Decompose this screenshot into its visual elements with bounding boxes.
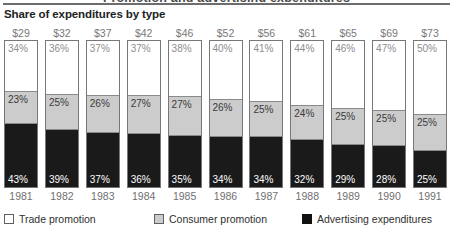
bar-segment-advertising-expenditures: 34%	[210, 137, 242, 187]
chart-title: Share of expenditures by type	[4, 8, 165, 20]
x-axis-tick-label: 1991	[413, 190, 447, 202]
bar-column-1988: $6144%24%32%1988	[290, 27, 324, 205]
bar-total-label: $32	[45, 27, 79, 40]
bar-total-label: $29	[4, 27, 38, 40]
bar-segment-trade-promotion: 36%	[46, 41, 78, 94]
bar-segment-consumer-promotion: 27%	[128, 95, 160, 134]
bar-segment-trade-promotion: 50%	[414, 41, 446, 114]
bar-column-1982: $3236%25%39%1982	[45, 27, 79, 205]
stacked-bar: 38%27%35%	[168, 40, 202, 188]
bar-column-1991: $7350%25%25%1991	[413, 27, 447, 205]
x-axis-tick-label: 1984	[127, 190, 161, 202]
bar-segment-trade-promotion: 40%	[210, 41, 242, 99]
bar-segment-advertising-expenditures: 35%	[169, 136, 201, 187]
bar-segment-value: 50%	[417, 43, 437, 54]
bar-column-1981: $2934%23%43%1981	[4, 27, 38, 205]
stacked-bar: 50%25%25%	[413, 40, 447, 188]
bar-segment-value: 36%	[49, 43, 69, 54]
bar-segment-value: 26%	[213, 102, 233, 113]
bar-segment-consumer-promotion: 26%	[87, 95, 119, 133]
bar-segment-consumer-promotion: 25%	[46, 94, 78, 131]
bar-segment-value: 24%	[294, 108, 314, 119]
x-axis-tick-label: 1986	[209, 190, 243, 202]
bar-segment-consumer-promotion: 25%	[332, 108, 364, 145]
bar-total-label: $46	[168, 27, 202, 40]
bar-segment-consumer-promotion: 26%	[210, 99, 242, 137]
bar-segment-value: 25%	[335, 111, 355, 122]
stacked-bar: 46%25%29%	[331, 40, 365, 188]
x-axis-tick-label: 1985	[168, 190, 202, 202]
bar-column-1985: $4638%27%35%1985	[168, 27, 202, 205]
stacked-bar: 36%25%39%	[45, 40, 79, 188]
bar-segment-advertising-expenditures: 28%	[373, 146, 405, 187]
bar-segment-value: 32%	[294, 174, 314, 185]
bar-segment-trade-promotion: 41%	[250, 41, 282, 101]
bar-segment-trade-promotion: 47%	[373, 41, 405, 110]
bar-column-1990: $6947%25%28%1990	[372, 27, 406, 205]
cut-off-headline: Promotion and advertising expenditures	[0, 0, 453, 2]
bar-column-1984: $4237%27%36%1984	[127, 27, 161, 205]
bar-segment-trade-promotion: 44%	[291, 41, 323, 105]
bar-segment-value: 29%	[335, 174, 355, 185]
bar-segment-value: 25%	[376, 113, 396, 124]
stacked-bar: 34%23%43%	[4, 40, 38, 188]
bar-segment-trade-promotion: 37%	[128, 41, 160, 95]
bar-segment-value: 36%	[131, 174, 151, 185]
bar-total-label: $61	[290, 27, 324, 40]
bar-total-label: $69	[372, 27, 406, 40]
bar-segment-consumer-promotion: 23%	[5, 91, 37, 125]
bar-total-label: $52	[209, 27, 243, 40]
x-axis-tick-label: 1989	[331, 190, 365, 202]
chart-legend: Trade promotionConsumer promotionAdverti…	[0, 212, 453, 228]
legend-label: Trade promotion	[19, 213, 96, 225]
bar-segment-value: 25%	[253, 104, 273, 115]
stacked-bar: 37%26%37%	[86, 40, 120, 188]
bar-total-label: $42	[127, 27, 161, 40]
bar-segment-consumer-promotion: 27%	[169, 96, 201, 135]
bar-segment-consumer-promotion: 25%	[373, 110, 405, 147]
legend-item-trade-promotion[interactable]: Trade promotion	[4, 212, 96, 226]
bar-segment-value: 41%	[253, 43, 273, 54]
bar-segment-advertising-expenditures: 39%	[46, 130, 78, 187]
x-axis-tick-label: 1982	[45, 190, 79, 202]
legend-swatch-icon	[302, 214, 312, 224]
legend-label: Advertising expenditures	[317, 213, 432, 225]
legend-item-advertising-expenditures[interactable]: Advertising expenditures	[302, 212, 432, 226]
bar-segment-value: 34%	[8, 43, 28, 54]
bar-column-1983: $3737%26%37%1983	[86, 27, 120, 205]
bar-total-label: $56	[249, 27, 283, 40]
stacked-bar: 47%25%28%	[372, 40, 406, 188]
stacked-bar: 44%24%32%	[290, 40, 324, 188]
bar-segment-value: 26%	[90, 98, 110, 109]
bar-segment-consumer-promotion: 25%	[250, 101, 282, 138]
bar-segment-value: 25%	[417, 174, 437, 185]
bar-segment-advertising-expenditures: 34%	[250, 137, 282, 187]
bar-column-1989: $6546%25%29%1989	[331, 27, 365, 205]
x-axis-tick-label: 1988	[290, 190, 324, 202]
bar-segment-advertising-expenditures: 37%	[87, 133, 119, 187]
bar-segment-value: 37%	[131, 43, 151, 54]
bar-segment-value: 37%	[90, 174, 110, 185]
bar-segment-advertising-expenditures: 32%	[291, 140, 323, 187]
bar-segment-value: 40%	[213, 43, 233, 54]
bar-segment-value: 35%	[172, 174, 192, 185]
bar-segment-value: 43%	[8, 174, 28, 185]
bar-segment-value: 23%	[8, 94, 28, 105]
legend-swatch-icon	[154, 214, 164, 224]
bar-segment-advertising-expenditures: 29%	[332, 145, 364, 187]
bar-segment-value: 46%	[335, 43, 355, 54]
x-axis-tick-label: 1987	[249, 190, 283, 202]
bar-total-label: $73	[413, 27, 447, 40]
stacked-bar: 37%27%36%	[127, 40, 161, 188]
bar-segment-trade-promotion: 34%	[5, 41, 37, 91]
bar-total-label: $65	[331, 27, 365, 40]
x-axis-tick-label: 1990	[372, 190, 406, 202]
bar-segment-value: 27%	[131, 98, 151, 109]
bar-segment-trade-promotion: 46%	[332, 41, 364, 108]
legend-item-consumer-promotion[interactable]: Consumer promotion	[154, 212, 267, 226]
bar-column-1987: $5641%25%34%1987	[249, 27, 283, 205]
bar-segment-value: 28%	[376, 174, 396, 185]
bar-segment-value: 34%	[253, 174, 273, 185]
bar-segment-value: 34%	[213, 174, 233, 185]
x-axis-tick-label: 1983	[86, 190, 120, 202]
